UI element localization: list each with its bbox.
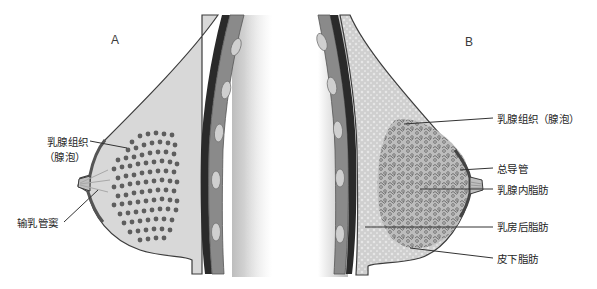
label-a-lactiferous-sinus: 输乳管窦 — [17, 215, 58, 230]
label-b-retromammary-fat: 乳房后脂肪 — [497, 219, 549, 234]
label-a-mammary-tissue: 乳腺组织 — [47, 134, 88, 149]
label-a-acini: （腺泡） — [44, 149, 85, 164]
breast-outline-a — [78, 15, 218, 274]
panel-b — [315, 15, 483, 277]
label-b-intraglandular-fat: 乳腺内脂肪 — [497, 182, 549, 197]
label-b-mammary-tissue-acini: 乳腺组织（腺泡） — [497, 111, 579, 126]
label-b-main-duct: 总导管 — [497, 161, 528, 176]
breast-anatomy-diagram — [0, 0, 597, 289]
panel-letter-b: B — [465, 35, 473, 49]
panel-letter-a: A — [111, 33, 119, 47]
panel-a — [78, 15, 272, 277]
label-b-subcutaneous-fat: 皮下脂肪 — [497, 251, 538, 266]
